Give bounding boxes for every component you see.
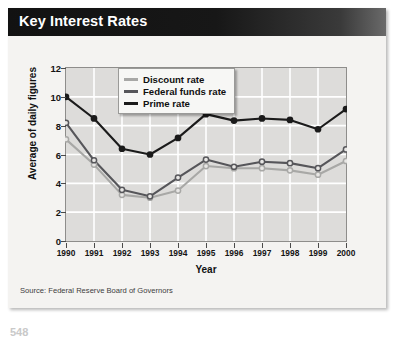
data-point-marker (315, 127, 320, 132)
chart-card: Key Interest Rates 024681012 19901991199… (8, 8, 386, 308)
data-point-marker (287, 161, 292, 166)
page-title: Key Interest Rates (19, 13, 147, 29)
y-axis-tick-mark (61, 212, 66, 213)
source-note: Source: Federal Reserve Board of Governo… (20, 286, 173, 295)
chart-title-bar: Key Interest Rates (8, 8, 386, 36)
y-axis-tick-label: 12 (50, 63, 61, 74)
data-point-marker (119, 146, 124, 151)
x-axis-tick-label: 1992 (113, 248, 132, 258)
data-point-marker (259, 159, 264, 164)
page-number: 548 (10, 326, 28, 338)
y-axis-tick-mark (61, 97, 66, 98)
data-point-marker (343, 158, 347, 163)
data-point-marker (147, 152, 152, 157)
data-point-marker (343, 106, 347, 111)
x-axis-tick-label: 1999 (309, 248, 328, 258)
x-axis-ticks: 1990199119921993199419951996199719981999… (65, 248, 347, 262)
data-point-marker (175, 135, 180, 140)
x-axis-tick-label: 2000 (337, 248, 356, 258)
data-point-marker (91, 116, 96, 121)
data-point-marker (315, 166, 320, 171)
data-point-marker (343, 147, 347, 152)
chart-figure: 024681012 199019911992199319941995199619… (8, 36, 386, 308)
y-axis-tick-mark (61, 241, 66, 242)
legend-color-swatch (124, 78, 138, 81)
x-axis-tick-label: 1998 (281, 248, 300, 258)
y-axis-tick-mark (61, 183, 66, 184)
legend-color-swatch (124, 90, 138, 93)
data-point-marker (147, 194, 152, 199)
x-axis-tick-label: 1993 (141, 248, 160, 258)
data-point-marker (65, 137, 69, 142)
data-point-marker (259, 116, 264, 121)
x-axis-tick-label: 1994 (169, 248, 188, 258)
data-point-marker (231, 118, 236, 123)
x-axis-label: Year (65, 264, 347, 275)
data-point-marker (65, 120, 69, 125)
data-point-marker (287, 117, 292, 122)
chart-legend: Discount rateFederal funds ratePrime rat… (118, 68, 235, 114)
data-point-marker (231, 164, 236, 169)
y-axis-tick-label: 10 (50, 91, 61, 102)
x-axis-tick-label: 1997 (253, 248, 272, 258)
legend-item-label: Discount rate (143, 74, 204, 85)
data-point-marker (175, 188, 180, 193)
legend-item: Discount rate (124, 73, 226, 85)
legend-item: Prime rate (124, 97, 226, 109)
legend-item-label: Prime rate (143, 98, 190, 109)
y-axis-ticks: 024681012 (39, 67, 61, 242)
x-axis-tick-label: 1991 (85, 248, 104, 258)
data-point-marker (91, 158, 96, 163)
legend-color-swatch (124, 102, 138, 105)
y-axis-label: Average of daily figures (27, 54, 38, 194)
y-axis-tick-mark (61, 126, 66, 127)
y-axis-tick-mark (61, 68, 66, 69)
data-point-marker (315, 172, 320, 177)
data-point-marker (259, 166, 264, 171)
x-axis-tick-label: 1990 (57, 248, 76, 258)
data-point-marker (203, 163, 208, 168)
data-point-marker (203, 157, 208, 162)
x-axis-tick-label: 1996 (225, 248, 244, 258)
data-point-marker (119, 187, 124, 192)
y-axis-tick-mark (61, 155, 66, 156)
x-axis-tick-label: 1995 (197, 248, 216, 258)
legend-item: Federal funds rate (124, 85, 226, 97)
data-point-marker (287, 168, 292, 173)
legend-item-label: Federal funds rate (143, 86, 226, 97)
data-point-marker (175, 175, 180, 180)
